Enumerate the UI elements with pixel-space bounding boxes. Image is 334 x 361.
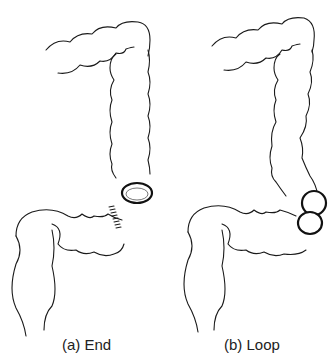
rectum-right-edge <box>214 230 225 330</box>
rectum-left-edge <box>184 232 198 332</box>
descending-colon-left-edge <box>270 54 286 196</box>
rectum-right-edge <box>44 230 55 330</box>
rectum-left-edge <box>12 236 26 336</box>
panel-a-end-colostomy <box>12 22 152 336</box>
caption-loop: (b) Loop <box>224 336 280 353</box>
transverse-colon-lower-edge <box>58 47 134 73</box>
caption-end: (a) End <box>62 336 111 353</box>
sigmoid-colon-upper-edge <box>188 206 296 232</box>
loop-stoma-distal-opening <box>298 212 322 234</box>
transverse-colon-lower-edge <box>224 44 300 70</box>
sigmoid-colon-lower-edge <box>52 224 124 256</box>
sigmoid-colon-lower-edge <box>222 224 306 256</box>
stoma-diagram <box>0 0 334 361</box>
transverse-colon-upper-edge <box>46 22 150 56</box>
panel-b-loop-colostomy <box>184 18 326 332</box>
descending-colon-left-edge <box>110 54 116 178</box>
suture-line <box>109 206 121 228</box>
loop-stoma-proximal-opening <box>302 191 326 215</box>
descending-colon-right-edge <box>148 50 150 174</box>
sigmoid-colon-upper-edge <box>16 210 122 236</box>
transverse-colon-upper-edge <box>212 18 314 52</box>
descending-colon-right-edge <box>300 50 318 196</box>
